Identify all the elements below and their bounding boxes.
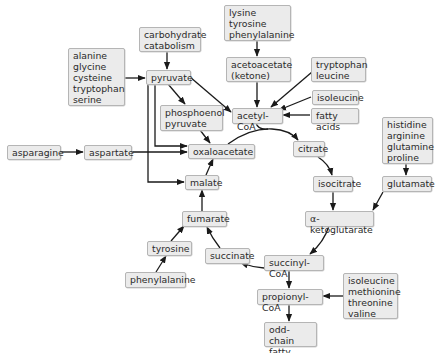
arrow-pep-to-oxaloacetate bbox=[200, 130, 210, 143]
node-fumarate: fumarate bbox=[182, 211, 227, 227]
arrow-citrate-to-isocitrate bbox=[318, 157, 332, 175]
node-pyruvate: pyruvate bbox=[146, 70, 191, 85]
arrow-glutamate-to-akg bbox=[373, 192, 383, 210]
metabolic-pathway-diagram: carbohydrate catabolism alanine glycine … bbox=[0, 0, 436, 353]
arrow-isoleucine-to-acetylcoa bbox=[279, 97, 311, 110]
node-amino-acids-ketogenic: lysine tyrosine phenylalanine bbox=[224, 5, 291, 41]
arrow-succinate-to-fumarate bbox=[207, 227, 220, 248]
node-fatty-acids: fatty acids bbox=[311, 108, 359, 124]
arrow-pyruvate-to-pep bbox=[168, 84, 185, 104]
node-acetoacetate: acetoacetate (ketone) bbox=[226, 57, 291, 82]
node-phosphoenolpyruvate: phosphoenol pyruvate bbox=[160, 105, 223, 131]
node-alpha-ketoglutarate: α-ketoglutarate bbox=[305, 211, 374, 227]
node-succinate: succinate bbox=[205, 248, 250, 264]
node-phenylalanine: phenylalanine bbox=[125, 272, 186, 288]
node-isocitrate: isocitrate bbox=[313, 176, 353, 192]
node-tryptophan-leucine: tryptophan leucine bbox=[311, 57, 366, 82]
node-citrate: citrate bbox=[293, 141, 325, 157]
node-glutamate: glutamate bbox=[382, 176, 432, 192]
node-malate: malate bbox=[185, 175, 219, 190]
node-acetyl-coa: acetyl-CoA bbox=[232, 108, 283, 124]
node-odd-chain-fatty-acids: odd-chain fatty acids bbox=[264, 322, 317, 347]
arrow-pyruvate-to-malate bbox=[148, 84, 184, 182]
node-amino-acids-propionyl: isoleucine methionine threonine valine bbox=[343, 273, 398, 319]
node-carbohydrate-catabolism: carbohydrate catabolism bbox=[139, 27, 201, 52]
node-amino-acids-pyruvate: alanine glycine cysteine tryptophan seri… bbox=[68, 48, 125, 106]
arrow-malate-to-oxaloacetate bbox=[206, 159, 213, 175]
arrow-phenylalanine-to-tyrosine bbox=[156, 256, 166, 272]
arrow-tyrosine-to-fumarate bbox=[171, 226, 184, 241]
node-amino-acids-glutamate: histidine arginine glutamine proline bbox=[382, 117, 433, 164]
node-succinyl-coa: succinyl-CoA bbox=[264, 255, 324, 271]
node-propionyl-coa: propionyl-CoA bbox=[257, 289, 323, 305]
node-oxaloacetate: oxaloacetate bbox=[188, 144, 255, 159]
node-tyrosine: tyrosine bbox=[147, 241, 192, 256]
node-isoleucine: isoleucine bbox=[312, 90, 359, 105]
node-asparagine: asparagine bbox=[7, 145, 61, 160]
node-aspartate: aspartate bbox=[84, 145, 132, 160]
